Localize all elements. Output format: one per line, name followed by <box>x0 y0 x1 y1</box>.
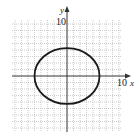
y-max-tick-label: 10 <box>56 16 66 27</box>
ellipse-graph: y 10 10 x <box>0 0 139 137</box>
y-axis-arrow-icon <box>65 6 70 12</box>
x-max-tick-label: 10 <box>117 77 127 88</box>
x-axis-label: x <box>129 78 134 88</box>
y-axis-label: y <box>59 5 64 15</box>
